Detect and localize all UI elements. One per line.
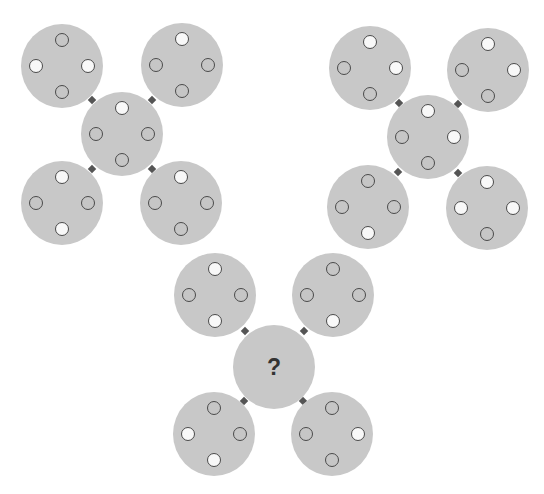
dot-top-white xyxy=(481,37,495,51)
dot-right-gray xyxy=(141,127,155,141)
disc-top-left xyxy=(21,24,103,108)
dot-bottom-white xyxy=(208,314,222,328)
dot-top-white xyxy=(208,262,222,276)
dot-bottom-gray xyxy=(363,87,377,101)
disc-bottom-left xyxy=(21,161,103,245)
dot-bottom-gray xyxy=(421,156,435,170)
dot-right-white xyxy=(447,130,461,144)
dot-left-gray xyxy=(182,288,196,302)
dot-right-gray xyxy=(201,58,215,72)
puzzle-canvas: ? xyxy=(0,0,544,494)
disc-bottom-right xyxy=(446,166,528,250)
dot-bottom-gray xyxy=(55,85,69,99)
dot-right-gray xyxy=(234,288,248,302)
dot-right-gray xyxy=(352,288,366,302)
dot-top-white xyxy=(175,32,189,46)
dot-left-gray xyxy=(300,288,314,302)
dot-left-gray xyxy=(149,58,163,72)
dot-top-gray xyxy=(207,401,221,415)
dot-top-white xyxy=(421,104,435,118)
dot-bottom-gray xyxy=(174,222,188,236)
disc-top-right xyxy=(447,28,529,112)
dot-left-white xyxy=(29,59,43,73)
dot-right-gray xyxy=(81,196,95,210)
dot-bottom-gray xyxy=(325,453,339,467)
dot-right-gray xyxy=(200,196,214,210)
dot-top-white xyxy=(55,170,69,184)
dot-top-white xyxy=(363,35,377,49)
dot-bottom-gray xyxy=(480,227,494,241)
dot-right-white xyxy=(81,59,95,73)
dot-left-gray xyxy=(337,61,351,75)
dot-bottom-white xyxy=(207,453,221,467)
question-mark: ? xyxy=(233,325,315,409)
dot-left-white xyxy=(454,201,468,215)
dot-left-gray xyxy=(29,196,43,210)
dot-left-gray xyxy=(89,127,103,141)
dot-top-gray xyxy=(55,33,69,47)
dot-top-white xyxy=(115,101,129,115)
dot-top-white xyxy=(480,175,494,189)
disc-bottom-left xyxy=(327,165,409,249)
disc-center: ? xyxy=(233,325,315,409)
dot-bottom-gray xyxy=(175,84,189,98)
dot-top-gray xyxy=(326,262,340,276)
dot-right-gray xyxy=(387,200,401,214)
dot-left-gray xyxy=(299,427,313,441)
disc-center xyxy=(81,92,163,176)
dot-right-white xyxy=(506,201,520,215)
dot-bottom-white xyxy=(55,222,69,236)
dot-top-gray xyxy=(325,401,339,415)
dot-right-white xyxy=(507,63,521,77)
dot-bottom-gray xyxy=(115,153,129,167)
disc-bottom-right xyxy=(140,161,222,245)
dot-left-gray xyxy=(335,200,349,214)
disc-bottom-right xyxy=(291,392,373,476)
disc-top-right xyxy=(141,23,223,107)
disc-center xyxy=(387,95,469,179)
dot-bottom-gray xyxy=(481,89,495,103)
dot-left-gray xyxy=(395,130,409,144)
dot-bottom-white xyxy=(326,314,340,328)
dot-top-gray xyxy=(361,174,375,188)
disc-bottom-left xyxy=(173,392,255,476)
dot-right-white xyxy=(389,61,403,75)
dot-bottom-white xyxy=(361,226,375,240)
disc-top-left xyxy=(329,26,411,110)
dot-top-white xyxy=(174,170,188,184)
dot-left-gray xyxy=(455,63,469,77)
dot-right-gray xyxy=(233,427,247,441)
dot-right-white xyxy=(351,427,365,441)
dot-left-gray xyxy=(148,196,162,210)
dot-left-white xyxy=(181,427,195,441)
